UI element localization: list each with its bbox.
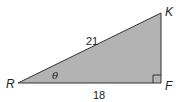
- vertex-label-f: F: [165, 79, 173, 93]
- side-label-base: 18: [93, 89, 105, 101]
- triangle-diagram: R K F 21 18 θ: [0, 0, 180, 102]
- angle-label-theta: θ: [52, 70, 58, 81]
- vertex-label-r: R: [6, 77, 15, 91]
- vertex-label-k: K: [165, 5, 174, 19]
- side-label-hypotenuse: 21: [86, 35, 98, 47]
- triangle-shape: [18, 13, 161, 83]
